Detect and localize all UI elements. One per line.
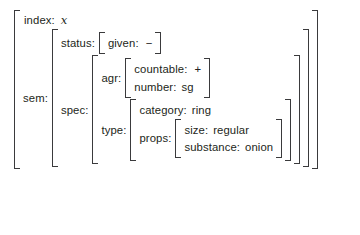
row-substance: substance: onion (184, 139, 273, 155)
attr-spec: spec: (61, 102, 89, 118)
bracket-right-outer (312, 10, 318, 169)
row-status: status: given: − (61, 32, 300, 54)
attr-substance: substance: (184, 139, 240, 155)
rows-spec: agr: countable: + (101, 55, 291, 163)
bracket-right-sem (303, 29, 309, 166)
row-given: given: − (108, 35, 152, 51)
matrix-type: category: ring props: (130, 99, 291, 161)
row-index: index: x (23, 12, 309, 28)
matrix-status: given: − (99, 32, 161, 54)
matrix-spec: agr: countable: + (92, 55, 300, 163)
value-category: ring (192, 102, 211, 118)
attr-sem: sem: (23, 90, 48, 106)
bracket-right-spec (294, 55, 300, 163)
rows-props: size: regular substance: onion (184, 119, 273, 158)
row-type: type: category: ring (101, 99, 291, 161)
bracket-left-props (175, 119, 181, 158)
rows-sem: status: given: − (61, 29, 300, 166)
rows-status: given: − (108, 32, 152, 54)
matrix-outer: index: x sem: status: (14, 10, 318, 169)
row-size: size: regular (184, 122, 273, 138)
bracket-left-type (130, 99, 136, 161)
value-given: − (146, 35, 153, 51)
attr-size: size: (184, 122, 208, 138)
bracket-right-agr (204, 58, 210, 97)
row-agr: agr: countable: + (101, 58, 291, 97)
rows-type: category: ring props: (139, 99, 282, 161)
rows-outer: index: x sem: status: (23, 10, 309, 169)
attr-index: index: (24, 12, 55, 28)
bracket-left-spec (92, 55, 98, 163)
feature-structure-diagram: index: x sem: status: (0, 0, 360, 235)
bracket-left-status (99, 32, 105, 54)
attr-countable: countable: (134, 61, 187, 77)
attr-props: props: (139, 130, 171, 146)
value-index: x (61, 12, 68, 28)
attr-type: type: (101, 122, 126, 138)
value-size: regular (213, 122, 249, 138)
matrix-props: size: regular substance: onion (175, 119, 282, 158)
outer-matrix: index: x sem: status: (14, 10, 318, 169)
value-number: sg (181, 79, 193, 95)
bracket-left-outer (14, 10, 20, 169)
bracket-left-agr (125, 58, 131, 97)
attr-number: number: (134, 79, 176, 95)
row-sem: sem: status: gi (23, 29, 309, 166)
matrix-sem: status: given: − (52, 29, 309, 166)
value-countable: + (194, 61, 201, 77)
bracket-left-sem (52, 29, 58, 166)
row-countable: countable: + (134, 61, 201, 77)
row-number: number: sg (134, 79, 201, 95)
bracket-right-status (155, 32, 161, 54)
value-substance: onion (245, 139, 273, 155)
row-spec: spec: agr: (61, 55, 300, 163)
attr-given: given: (108, 35, 139, 51)
row-props: props: size: (139, 119, 282, 158)
bracket-right-type (285, 99, 291, 161)
attr-category: category: (139, 102, 186, 118)
bracket-right-props (276, 119, 282, 158)
row-category: category: ring (139, 102, 282, 118)
attr-status: status: (61, 35, 95, 51)
attr-agr: agr: (101, 70, 121, 86)
rows-agr: countable: + number: sg (134, 58, 201, 97)
matrix-agr: countable: + number: sg (125, 58, 210, 97)
